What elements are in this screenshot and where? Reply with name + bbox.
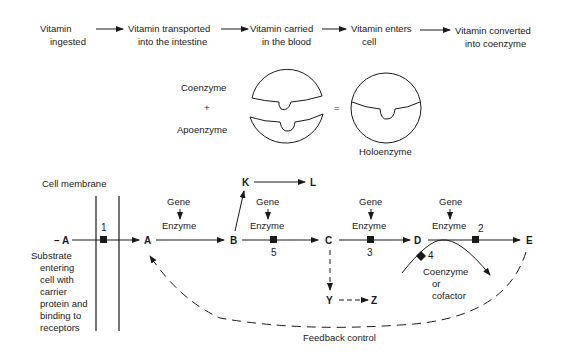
node-z: Z <box>371 295 377 306</box>
block-5-label: 5 <box>271 247 277 258</box>
block-3-icon <box>367 236 374 243</box>
block-1-label: 1 <box>101 222 107 233</box>
step-label-line1: Vitamin <box>40 23 72 34</box>
node-y: Y <box>326 295 333 306</box>
step-label-line2: cell <box>362 36 376 47</box>
note-line: entering <box>40 262 74 273</box>
enzyme-label: Enzyme <box>162 220 196 231</box>
equals-sign: = <box>334 102 340 113</box>
note-line: receptors <box>40 322 80 333</box>
block-4-label: 4 <box>428 250 434 261</box>
note-line: carrier <box>40 286 67 297</box>
step-label-line1: Vitamin carried <box>250 23 313 34</box>
feedback-control-arrow <box>150 252 526 327</box>
node-l: L <box>310 177 316 188</box>
arrow-b-to-k <box>235 191 244 231</box>
block-2-icon <box>472 236 479 243</box>
pathway-step-ingested: Vitamin ingested <box>40 23 86 47</box>
step-label-line2: into coenzyme <box>465 38 526 49</box>
node-b: B <box>230 235 237 246</box>
vitamin-metabolism-diagram: Vitamin ingested Vitamin transported int… <box>0 0 562 358</box>
gene-label: Gene <box>359 196 382 207</box>
enzyme-label: Enzyme <box>250 220 284 231</box>
step-label-line2: in the blood <box>262 36 311 47</box>
note-line: binding to <box>40 310 81 321</box>
block-3-label: 3 <box>367 247 373 258</box>
step-label-line1: Vitamin enters <box>351 23 412 34</box>
node-k: K <box>242 177 250 188</box>
gene-label: Gene <box>439 196 462 207</box>
substrate-note: Substrate entering cell with carrier pro… <box>31 250 88 333</box>
note-line: protein and <box>40 298 88 309</box>
plus-sign: + <box>204 102 210 113</box>
block-1-icon <box>100 236 107 243</box>
apoenzyme-label: Apoenzyme <box>177 124 227 135</box>
note-line: cell with <box>40 274 74 285</box>
node-a: A <box>144 235 151 246</box>
pathway-step-carried: Vitamin carried in the blood <box>250 23 313 47</box>
node-d: D <box>414 235 421 246</box>
step-label-line1: Vitamin converted <box>455 25 531 36</box>
coenzyme-shape-icon <box>252 69 322 109</box>
apoenzyme-shape-icon <box>250 114 323 143</box>
step-label-line2: into the intestine <box>138 36 207 47</box>
cofactor-label-line: cofactor <box>432 290 466 301</box>
holoenzyme-junction <box>352 102 420 119</box>
pathway-step-converted: Vitamin converted into coenzyme <box>455 25 531 49</box>
metabolic-pathway-diagram: Cell membrane – A 1 Substrate entering c… <box>31 177 533 343</box>
coenzyme-label: Coenzyme <box>181 82 226 93</box>
feedback-control-label: Feedback control <box>303 332 376 343</box>
node-e: E <box>526 235 533 246</box>
step-label-line1: Vitamin transported <box>128 23 210 34</box>
cell-membrane-label: Cell membrane <box>42 178 106 189</box>
node-a-outside: – A <box>54 235 69 246</box>
gene-label: Gene <box>167 196 190 207</box>
node-c: C <box>325 235 332 246</box>
block-2-label: 2 <box>478 223 484 234</box>
vitamin-pathway: Vitamin ingested Vitamin transported int… <box>40 23 531 49</box>
cofactor-label-line: or <box>432 278 440 289</box>
pathway-step-transported: Vitamin transported into the intestine <box>128 23 210 47</box>
pathway-step-enters: Vitamin enters cell <box>351 23 412 47</box>
step-label-line2: ingested <box>50 36 86 47</box>
enzyme-label: Enzyme <box>432 220 466 231</box>
holoenzyme-label: Holoenzyme <box>359 146 412 157</box>
note-line: Substrate <box>31 250 72 261</box>
enzyme-equation: Coenzyme + Apoenzyme = Holoenzyme <box>177 69 421 157</box>
gene-label: Gene <box>256 196 279 207</box>
cofactor-label-line: Coenzyme <box>423 266 468 277</box>
block-5-icon <box>270 236 277 243</box>
holoenzyme-shape-icon <box>351 73 421 143</box>
block-4-icon <box>416 251 426 261</box>
enzyme-label: Enzyme <box>352 220 386 231</box>
